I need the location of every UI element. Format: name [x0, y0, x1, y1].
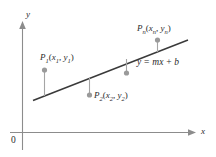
- line-equation-label: y = mx + b: [137, 58, 179, 68]
- point-label-p1: P1(x1, y1): [40, 53, 74, 64]
- point-p2: [87, 92, 92, 97]
- residual-stems: [45, 40, 158, 96]
- origin-label: 0: [11, 136, 16, 146]
- data-points: [42, 37, 160, 97]
- y-axis: [19, 21, 26, 150]
- least-squares-figure: y x 0 P1(x1, y1) P2(x2, y2) Pn(xn, yn) y…: [0, 0, 216, 157]
- point-p-mid: [124, 70, 129, 75]
- equation-b: b: [174, 57, 179, 67]
- point-label-p2: P2(x2, y2): [94, 91, 128, 102]
- x-axis-label: x: [201, 127, 205, 136]
- point-p1: [42, 67, 47, 72]
- point-pn: [155, 37, 160, 42]
- point-label-p2-close-paren: ): [125, 90, 128, 100]
- point-label-pn: Pn(xn, yn): [137, 24, 171, 35]
- point-label-p1-close-paren: ): [71, 52, 74, 62]
- y-axis-label: y: [26, 10, 30, 19]
- x-axis: [10, 129, 196, 136]
- figure-canvas: [0, 0, 216, 157]
- point-label-pn-close-paren: ): [168, 23, 171, 33]
